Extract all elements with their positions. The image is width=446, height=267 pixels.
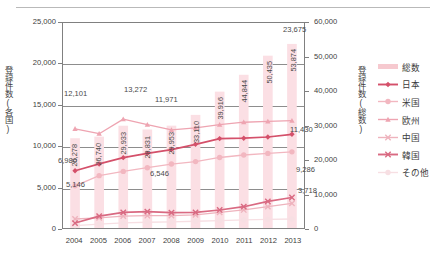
legend-label-日本: 日本 <box>402 78 420 90</box>
legend-label-中国: 中国 <box>402 131 420 143</box>
bar-label-2010: 39,916 <box>216 97 225 120</box>
right-tick-20000: 20,000 <box>305 155 360 164</box>
point-米国-2006 <box>121 169 126 174</box>
legend-item-欧州[interactable]: 欧州 <box>378 111 444 129</box>
chart-legend: 総数日本米国欧州中国韓国その他 <box>378 58 444 181</box>
chart-canvas <box>63 23 304 228</box>
point-その他-2013 <box>289 216 294 221</box>
chart-page: 登録件数(各国) 登録件数(総数) 25,00020,00015,00010,0… <box>0 0 446 267</box>
callout-11971: 11,971 <box>155 95 178 104</box>
line-欧州 <box>75 119 292 134</box>
left-tickmark-0 <box>58 229 62 230</box>
line-米国 <box>75 152 292 186</box>
point-米国-2009 <box>193 159 198 164</box>
left-tick-0: 0 <box>10 224 56 233</box>
legend-label-欧州: 欧州 <box>402 114 420 126</box>
legend-label-総数: 総数 <box>402 61 420 73</box>
point-その他-2012 <box>265 217 270 222</box>
right-tickmark-50000 <box>305 57 309 58</box>
right-tickmark-40000 <box>305 91 309 92</box>
line-その他 <box>75 219 292 226</box>
right-tick-0: 0 <box>305 224 360 233</box>
point-米国-2005 <box>96 173 101 178</box>
right-tickmark-20000 <box>305 160 309 161</box>
legend-item-韓国[interactable]: 韓国 <box>378 146 444 164</box>
bar-label-2007: 28,831 <box>143 136 152 159</box>
point-その他-2009 <box>193 219 198 224</box>
point-その他-2010 <box>217 218 222 223</box>
point-米国-2013 <box>289 149 294 154</box>
bar-label-2009: 33,110 <box>192 121 201 143</box>
legend-label-その他: その他 <box>402 166 429 178</box>
callout-13272: 13,272 <box>124 85 147 94</box>
legend-item-その他[interactable]: その他 <box>378 164 444 182</box>
line-日本 <box>75 134 292 170</box>
bar-label-2006: 29,933 <box>119 132 128 155</box>
point-欧州-2006 <box>121 116 126 121</box>
bar-label-2008: 29,953 <box>167 132 176 155</box>
callout-6980: 6,980 <box>58 156 77 165</box>
point-米国-2012 <box>265 151 270 156</box>
left-tick-25000: 25,000 <box>10 17 56 26</box>
line-中国 <box>75 203 292 219</box>
point-米国-2010 <box>217 155 222 160</box>
callout-23675: 23,675 <box>283 25 306 34</box>
legend-item-日本[interactable]: 日本 <box>378 76 444 94</box>
callout-6546: 6,546 <box>150 169 169 178</box>
left-tick-20000: 20,000 <box>10 58 56 67</box>
callout-12101: 12,101 <box>64 89 87 98</box>
callout-9286: 9,286 <box>296 165 315 174</box>
legend-item-米国[interactable]: 米国 <box>378 93 444 111</box>
legend-swatch-中国-icon <box>378 132 398 143</box>
callout-11430: 11,430 <box>290 125 313 134</box>
callout-3718: 3,718 <box>298 186 317 195</box>
right-tick-30000: 30,000 <box>305 121 360 130</box>
point-その他-2007 <box>145 220 150 225</box>
legend-swatch-欧州-icon <box>378 114 398 125</box>
callout-5146: 5,146 <box>66 180 85 189</box>
plot-area <box>62 22 305 229</box>
point-その他-2006 <box>121 220 126 225</box>
legend-swatch-日本-icon <box>378 79 398 90</box>
legend-swatch-韓国-icon <box>378 149 398 160</box>
left-tick-10000: 10,000 <box>10 141 56 150</box>
legend-item-総数[interactable]: 総数 <box>378 58 444 76</box>
right-tick-50000: 50,000 <box>305 52 360 61</box>
legend-swatch-総数-icon <box>378 61 398 72</box>
point-その他-2008 <box>169 219 174 224</box>
point-その他-2005 <box>96 221 101 226</box>
right-tick-60000: 60,000 <box>305 17 360 26</box>
right-tick-40000: 40,000 <box>305 86 360 95</box>
bar-label-2012: 50,435 <box>265 61 274 84</box>
left-tick-15000: 15,000 <box>10 100 56 109</box>
legend-item-中国[interactable]: 中国 <box>378 128 444 146</box>
point-その他-2011 <box>241 217 246 222</box>
left-tick-5000: 5,000 <box>10 183 56 192</box>
bar-label-2013: 53,874 <box>289 49 298 72</box>
point-米国-2008 <box>169 161 174 166</box>
legend-label-韓国: 韓国 <box>402 149 420 161</box>
right-tickmark-0 <box>305 229 309 230</box>
right-tickmark-60000 <box>305 22 309 23</box>
top-divider <box>16 7 430 8</box>
point-米国-2011 <box>241 152 246 157</box>
x-tick-2013: 2013 <box>278 236 308 245</box>
legend-swatch-その他-icon <box>378 167 398 178</box>
bar-label-2005: 26,740 <box>94 143 103 166</box>
bar-label-2011: 44,844 <box>240 80 249 103</box>
legend-swatch-米国-icon <box>378 96 398 107</box>
legend-label-米国: 米国 <box>402 96 420 108</box>
